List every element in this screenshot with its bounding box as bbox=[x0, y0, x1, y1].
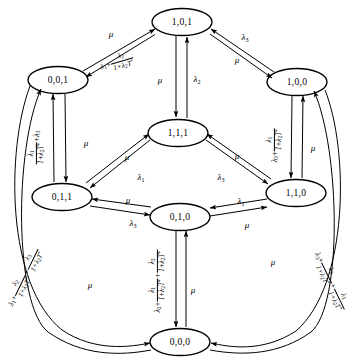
edge-label-mu-010-110: μ bbox=[245, 221, 250, 230]
edge-label-lam3-011-010: λ3 bbox=[130, 219, 137, 228]
edge-001-to-011 bbox=[65, 94, 66, 182]
edge-label-mu-010-011: μ bbox=[126, 196, 131, 205]
edge-label-mu-111-110: μ bbox=[235, 152, 240, 161]
edge-label-lam3-110-111: λ3 bbox=[218, 173, 225, 182]
node-ellipse-100 bbox=[267, 69, 327, 96]
edge-label-mu-111-011: μ bbox=[125, 153, 130, 162]
edge-label-mu-100-101: μ bbox=[235, 56, 240, 65]
edge-111-to-110 bbox=[206, 140, 268, 184]
edge-001-to-000 bbox=[15, 86, 150, 346]
node-ellipse-011 bbox=[32, 184, 92, 211]
edge-100-to-110 bbox=[291, 96, 292, 178]
edge-label-lam31-100-110: λ3+λ11+λ2T* bbox=[264, 128, 284, 163]
edge-label-lam2-111-101: λ2 bbox=[194, 75, 201, 84]
edge-label-lam13-001-011: λ11+λ2T*+λ3 bbox=[26, 131, 46, 166]
edge-label-mu-011-001: μ bbox=[84, 139, 89, 148]
edge-011-to-010 bbox=[90, 206, 150, 215]
edge-label-mu-000-010: μ bbox=[191, 286, 196, 295]
edge-label-mu-000-001: μ bbox=[88, 281, 93, 290]
edge-label-mu-000-100: μ bbox=[271, 258, 276, 267]
diagram-canvas bbox=[0, 0, 355, 363]
edge-011-to-001 bbox=[53, 94, 54, 182]
edge-label-lam1-011-111: λ1 bbox=[138, 173, 145, 182]
node-ellipse-111 bbox=[148, 120, 208, 147]
node-ellipse-101 bbox=[152, 9, 212, 36]
node-ellipse-010 bbox=[150, 204, 210, 231]
edge-label-mu-001-101: μ bbox=[109, 30, 114, 39]
edge-010-to-011 bbox=[92, 199, 151, 207]
edge-label-lam213-010-000: λ2+λ11+λ2T*+λ31+λ2T* bbox=[147, 249, 167, 312]
edge-110-to-100 bbox=[302, 96, 303, 178]
edge-label-mu-110-100: μ bbox=[311, 144, 316, 153]
edge-label-lam3-101-100: λ3 bbox=[242, 33, 249, 42]
edge-label-lam1-110-010: λ1 bbox=[238, 197, 245, 206]
node-ellipse-110 bbox=[266, 180, 326, 207]
edge-label-mu-101-111: μ bbox=[158, 76, 163, 85]
edge-010-to-110 bbox=[210, 207, 267, 216]
state-transition-diagram: 1,0,1 0,0,1 1,0,0 1,1,1 0,1,1 1,1,0 0,1,… bbox=[0, 0, 355, 363]
node-ellipse-001 bbox=[28, 67, 88, 94]
node-ellipse-000 bbox=[150, 329, 210, 356]
